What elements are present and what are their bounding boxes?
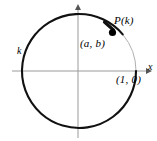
label-x-axis: x <box>148 62 153 72</box>
unit-circle-figure: P(k) (a, b) (1, 0) k x <box>0 0 157 141</box>
label-coordinates: (a, b) <box>80 38 105 49</box>
label-point-p: P(k) <box>114 15 134 26</box>
thin-arc-segment <box>123 34 136 71</box>
label-arc-length-k: k <box>17 46 22 56</box>
label-initial-point: (1, 0) <box>116 74 141 85</box>
terminal-point-dot <box>109 29 116 36</box>
y-axis-arrowhead-icon <box>75 4 81 10</box>
